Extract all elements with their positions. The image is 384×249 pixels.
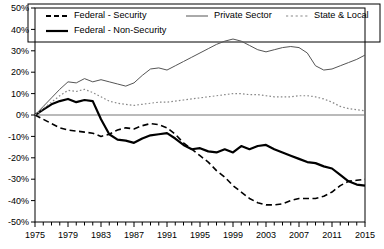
- y-tick-label: 40%: [11, 25, 29, 35]
- x-axis-tick-labels: 1975197919831987199119951999200320072011…: [25, 230, 375, 240]
- y-tick-label: 0%: [16, 110, 29, 120]
- x-tick-label: 1999: [223, 230, 243, 240]
- legend-label: Federal - Security: [74, 10, 147, 20]
- employment-growth-line-chart: 50%40%30%20%10%0%-10%-20%-30%-40%-50% 19…: [0, 0, 384, 249]
- x-tick-label: 2011: [322, 230, 341, 240]
- y-tick-label: -20%: [8, 153, 29, 163]
- y-tick-label: -50%: [8, 217, 29, 227]
- y-tick-label: 10%: [11, 89, 29, 99]
- y-tick-label: -40%: [8, 196, 29, 206]
- y-tick-label: 30%: [11, 46, 29, 56]
- x-tick-label: 1995: [190, 230, 210, 240]
- chart-background: [0, 0, 384, 249]
- x-tick-label: 2003: [256, 230, 276, 240]
- y-tick-label: -30%: [8, 174, 29, 184]
- x-tick-label: 1975: [25, 230, 45, 240]
- y-tick-label: 50%: [11, 3, 29, 13]
- x-tick-label: 1983: [91, 230, 111, 240]
- x-tick-label: 2015: [355, 230, 375, 240]
- x-tick-label: 2007: [289, 230, 309, 240]
- chart-container: 50%40%30%20%10%0%-10%-20%-30%-40%-50% 19…: [0, 0, 384, 249]
- legend-label: Private Sector: [214, 10, 272, 20]
- x-tick-label: 1987: [124, 230, 144, 240]
- y-tick-label: 20%: [11, 67, 29, 77]
- y-tick-label: -10%: [8, 132, 29, 142]
- legend-label: State & Local: [314, 10, 369, 20]
- x-tick-label: 1979: [58, 230, 78, 240]
- x-tick-label: 1991: [157, 230, 177, 240]
- legend-label: Federal - Non-Security: [74, 25, 167, 35]
